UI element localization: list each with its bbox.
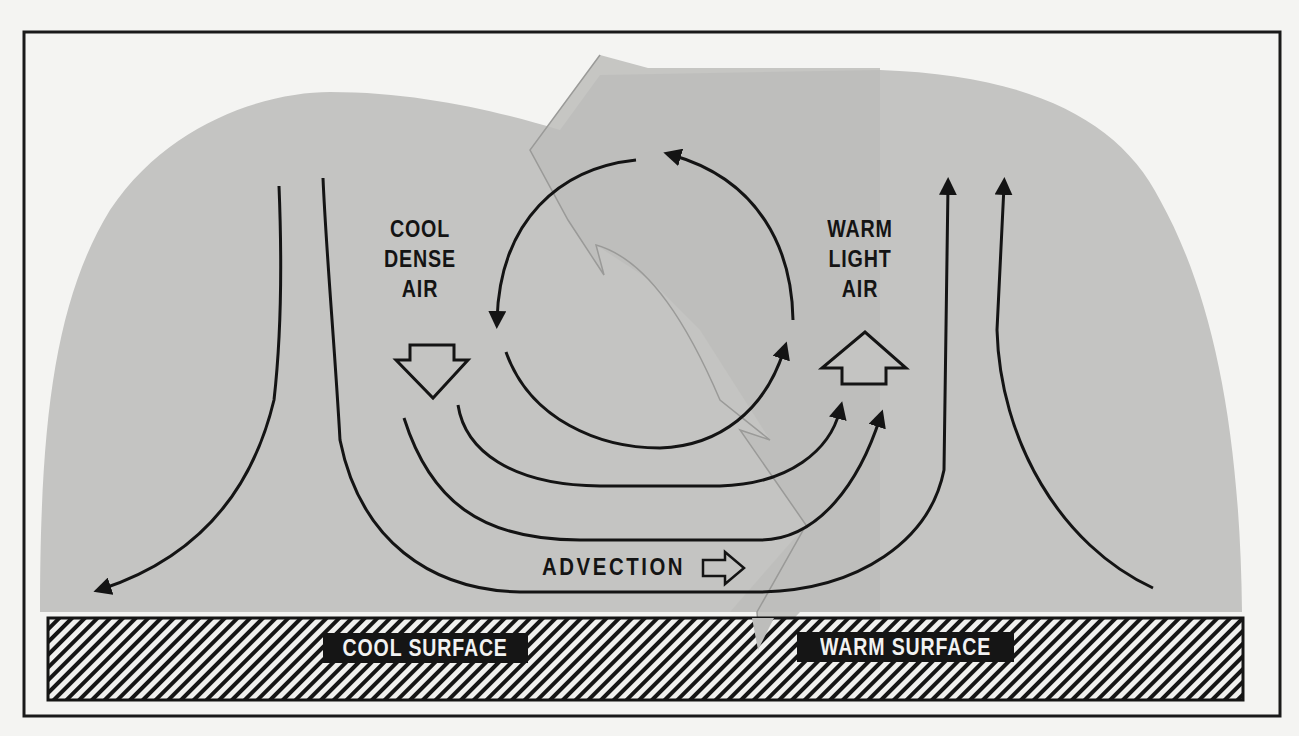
warm-label-line-3: AIR: [819, 274, 901, 304]
surface-strip: [48, 618, 1243, 700]
warm-surface-text: WARM SURFACE: [820, 632, 991, 662]
cool-surface-label: COOL SURFACE: [323, 633, 528, 663]
warm-label-line-2: LIGHT: [819, 244, 901, 274]
circulation-diagram: [0, 0, 1299, 736]
warm-label-line-1: WARM: [819, 214, 901, 244]
cool-label-line-2: DENSE: [379, 244, 461, 274]
cool-label-line-1: COOL: [379, 214, 461, 244]
warm-surface-label: WARM SURFACE: [797, 632, 1014, 662]
warm-light-air-label: WARM LIGHT AIR: [819, 214, 901, 304]
advection-label: ADVECTION: [542, 553, 685, 581]
cool-label-line-3: AIR: [379, 274, 461, 304]
cool-dense-air-label: COOL DENSE AIR: [379, 214, 461, 304]
cool-surface-text: COOL SURFACE: [343, 633, 508, 663]
